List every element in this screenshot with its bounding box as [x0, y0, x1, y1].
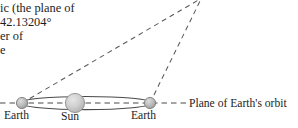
caption-line-4: e — [0, 44, 6, 56]
label-plane-of-earths-orbit: Plane of Earth's orbit — [189, 98, 287, 110]
earth-sphere-right — [144, 97, 155, 108]
label-sun: Sun — [61, 111, 79, 123]
caption-line-1: ic (the plane of — [0, 2, 75, 14]
label-earth-left: Earth — [4, 110, 29, 122]
orbit-diagram-figure: ic (the plane of 42.13204° er of e Earth… — [0, 0, 298, 128]
earth-sphere-left — [16, 97, 27, 108]
caption-line-3: er of — [0, 30, 23, 42]
sight-line-from-right-earth — [150, 0, 203, 103]
label-earth-right: Earth — [131, 110, 156, 122]
caption-line-2-angle: 42.13204° — [0, 16, 51, 28]
